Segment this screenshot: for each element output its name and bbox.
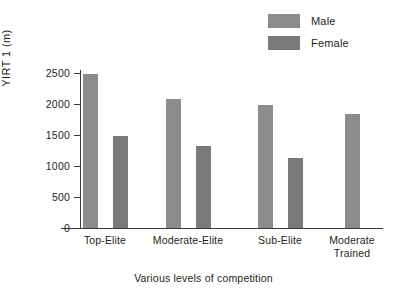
y-tick-label-wrap: 500 bbox=[26, 192, 70, 202]
legend-swatch-female bbox=[268, 36, 300, 50]
y-tick-label: 1500 bbox=[30, 130, 70, 140]
y-tick-label-wrap: 2500 bbox=[26, 68, 70, 78]
legend-label-male: Male bbox=[311, 14, 336, 28]
bar-chart: Male Female YIRT 1 (m) 25002000150010005… bbox=[0, 0, 407, 295]
y-tick-label-wrap: 1500 bbox=[26, 130, 70, 140]
y-tick-label-wrap: 0 bbox=[26, 223, 70, 233]
y-tick-label: 0 bbox=[30, 223, 70, 233]
x-axis-category-label: Moderate Trained bbox=[297, 234, 407, 259]
bar-male bbox=[258, 105, 273, 228]
y-tick-mark bbox=[74, 228, 81, 229]
legend-item-female: Female bbox=[268, 32, 403, 54]
y-tick-label-wrap: 1000 bbox=[26, 161, 70, 171]
legend-swatch-male bbox=[268, 14, 300, 28]
plot-area bbox=[80, 73, 380, 228]
legend-label-female: Female bbox=[311, 36, 349, 50]
y-tick-label: 2500 bbox=[30, 68, 70, 78]
bar-male bbox=[345, 114, 360, 228]
chart-legend: Male Female bbox=[268, 10, 403, 54]
y-tick-label: 2000 bbox=[30, 99, 70, 109]
bar-female bbox=[113, 136, 128, 228]
bar-female bbox=[196, 146, 211, 228]
bar-female bbox=[288, 158, 303, 228]
bar-male bbox=[83, 74, 98, 228]
legend-item-male: Male bbox=[268, 10, 403, 32]
bar-male bbox=[166, 99, 181, 228]
y-tick-label: 1000 bbox=[30, 161, 70, 171]
x-axis-line bbox=[61, 228, 383, 229]
y-axis-title: YIRT 1 (m) bbox=[0, 8, 12, 108]
y-tick-label: 500 bbox=[30, 192, 70, 202]
y-tick-label-wrap: 2000 bbox=[26, 99, 70, 109]
x-axis-title: Various levels of competition bbox=[0, 272, 407, 284]
